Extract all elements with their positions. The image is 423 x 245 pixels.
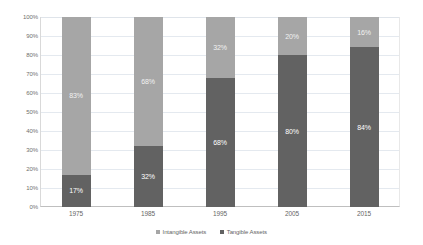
bar-value-label: 68% [141,78,155,85]
bar-segment[interactable]: 80% [278,55,307,207]
legend-swatch-icon [220,230,224,234]
y-axis-tick-label: 60% [4,90,38,96]
bar-segment[interactable]: 32% [206,17,235,78]
legend-item[interactable]: Tangible Assets [220,229,267,235]
y-axis-tick-label: 70% [4,71,38,77]
bar-segment[interactable]: 84% [350,47,379,207]
bar-value-label: 68% [213,139,227,146]
legend-label: Tangible Assets [227,229,267,235]
x-axis: 19751985199520052015 [40,210,400,224]
y-axis-tick-label: 10% [4,185,38,191]
legend-label: Intangible Assets [163,229,207,235]
x-axis-tick-label: 2015 [357,210,371,217]
y-axis: 0%10%20%30%40%50%60%70%80%90%100% [0,17,38,207]
x-axis-tick-label: 1985 [141,210,155,217]
y-axis-tick-label: 80% [4,52,38,58]
x-axis-tick-label: 1995 [213,210,227,217]
bar-segment[interactable]: 68% [134,17,163,146]
bar-group[interactable]: 83%17% [62,17,91,207]
bar-group[interactable]: 68%32% [134,17,163,207]
bar-value-label: 32% [141,173,155,180]
chart-legend: Intangible AssetsTangible Assets [0,229,423,235]
y-axis-tick-label: 20% [4,166,38,172]
y-axis-tick-label: 100% [4,14,38,20]
legend-swatch-icon [156,230,160,234]
y-axis-tick-label: 90% [4,33,38,39]
x-axis-tick-label: 1975 [69,210,83,217]
bar-segment[interactable]: 68% [206,78,235,207]
bar-value-label: 17% [69,187,83,194]
bar-group[interactable]: 16%84% [350,17,379,207]
bar-value-label: 16% [357,29,371,36]
bar-group[interactable]: 20%80% [278,17,307,207]
bar-segment[interactable]: 32% [134,146,163,207]
bar-value-label: 83% [69,92,83,99]
bar-group[interactable]: 32%68% [206,17,235,207]
bar-segment[interactable]: 17% [62,175,91,207]
y-axis-tick-label: 0% [4,204,38,210]
bar-value-label: 32% [213,44,227,51]
y-axis-tick-label: 30% [4,147,38,153]
bars-layer: 83%17%68%32%32%68%20%80%16%84% [40,17,400,207]
y-axis-tick-label: 50% [4,109,38,115]
x-axis-tick-label: 2005 [285,210,299,217]
legend-item[interactable]: Intangible Assets [156,229,206,235]
bar-segment[interactable]: 83% [62,17,91,175]
y-axis-tick-label: 40% [4,128,38,134]
bar-value-label: 20% [285,33,299,40]
chart-container: 0%10%20%30%40%50%60%70%80%90%100% 83%17%… [0,0,423,245]
bar-value-label: 84% [357,124,371,131]
bar-segment[interactable]: 16% [350,17,379,47]
bar-value-label: 80% [285,128,299,135]
bar-segment[interactable]: 20% [278,17,307,55]
